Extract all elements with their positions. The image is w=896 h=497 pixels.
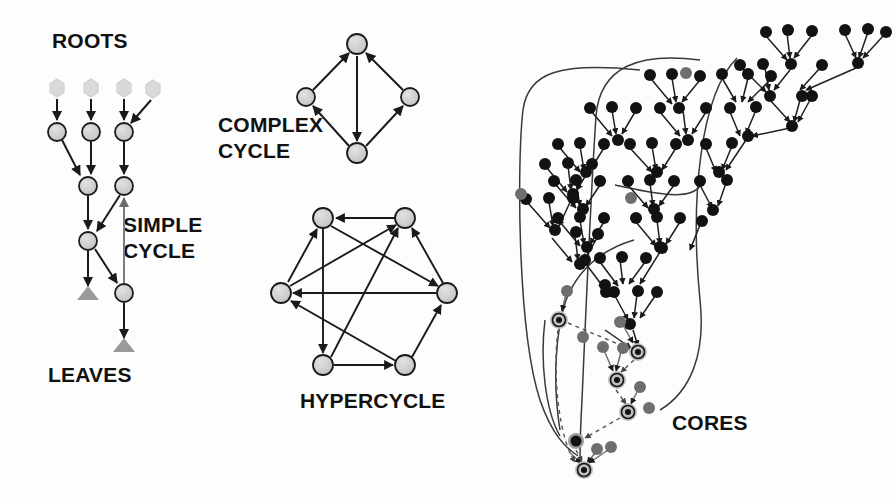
complex-node-right	[401, 88, 419, 106]
tree-node	[79, 232, 97, 250]
gray-node	[577, 331, 589, 343]
gray-node	[643, 402, 655, 414]
label-leaves: LEAVES	[48, 363, 132, 386]
gray-node	[625, 192, 637, 204]
tree-node	[82, 123, 100, 141]
tree-node	[115, 177, 133, 195]
gray-node	[515, 188, 527, 200]
hyper-node-top-left	[313, 208, 333, 228]
gray-node	[617, 342, 629, 354]
root-node-hexagon	[50, 79, 64, 97]
gray-node	[634, 381, 646, 393]
core-node	[575, 461, 593, 479]
hyper-node-bottom-left	[313, 355, 333, 375]
hyper-node-top-right	[395, 208, 415, 228]
label-hypercycle: HYPERCYCLE	[300, 389, 446, 412]
complex-node-left	[297, 88, 315, 106]
root-node-hexagon	[146, 80, 160, 98]
hyper-node-right	[437, 283, 457, 303]
tree-node	[48, 123, 66, 141]
gray-node	[561, 285, 573, 297]
gray-node	[680, 67, 692, 79]
root-node-hexagon	[84, 79, 98, 97]
tree-node	[115, 123, 133, 141]
gray-node	[614, 316, 626, 328]
tree-node	[115, 284, 133, 302]
core-node	[550, 311, 568, 329]
core-node	[619, 403, 637, 421]
label-simple-cycle-line2: CYCLE	[123, 239, 195, 262]
complex-node-top	[347, 34, 367, 54]
tree-node	[79, 177, 97, 195]
network-topology-figure: ROOTS LEAVES SIMPLE CYCLE	[0, 0, 896, 497]
gray-node	[605, 441, 617, 453]
label-simple-cycle-line1: SIMPLE	[123, 213, 202, 236]
figure-canvas: ROOTS LEAVES SIMPLE CYCLE	[0, 0, 896, 497]
hyper-node-left	[271, 283, 291, 303]
core-node	[608, 371, 626, 389]
complex-node-bottom	[347, 143, 367, 163]
label-complex-cycle-line1: COMPLEX	[218, 113, 323, 136]
gray-node	[591, 443, 603, 455]
hyper-node-bottom-right	[395, 355, 415, 375]
label-complex-cycle-line2: CYCLE	[218, 139, 290, 162]
root-node-hexagon	[117, 79, 131, 97]
gray-node	[597, 341, 609, 353]
label-roots: ROOTS	[52, 29, 128, 52]
core-node	[629, 343, 647, 361]
core-node	[568, 433, 584, 449]
label-cores: CORES	[672, 411, 748, 434]
